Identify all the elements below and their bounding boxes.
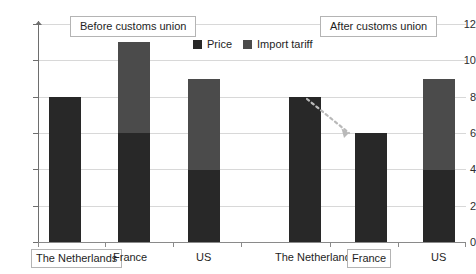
x-label-after-france: France xyxy=(347,249,391,268)
x-axis-tick-2 xyxy=(173,242,174,247)
group-title-after: After customs union xyxy=(320,16,437,37)
y-tick-label-12: 12 xyxy=(450,19,476,30)
legend-label-import-tariff: Import tariff xyxy=(257,39,312,50)
x-axis-tick-5 xyxy=(398,242,399,247)
x-label-before-france: France xyxy=(109,249,151,266)
legend-swatch-import-tariff-icon xyxy=(243,40,252,49)
plot-area xyxy=(38,24,466,242)
y-tick-6 xyxy=(33,133,38,134)
bar-segment-price xyxy=(423,170,455,242)
x-label-after-us: US xyxy=(427,249,450,266)
gridline-10 xyxy=(38,60,466,61)
bar-before-us xyxy=(188,79,220,242)
y-tick-8 xyxy=(33,97,38,98)
x-axis-line xyxy=(38,242,466,243)
bar-after-the-netherlands xyxy=(289,97,321,242)
y-tick-10 xyxy=(33,60,38,61)
bar-segment-import-tariff xyxy=(188,79,220,170)
bar-segment-price xyxy=(188,170,220,242)
x-axis-tick-4 xyxy=(330,242,331,247)
legend-label-price: Price xyxy=(207,39,232,50)
gridline-2 xyxy=(38,206,466,207)
x-axis-tick-1 xyxy=(105,242,106,247)
bar-segment-import-tariff xyxy=(423,79,455,170)
bar-before-france xyxy=(118,42,150,242)
bar-segment-price xyxy=(289,97,321,242)
bar-after-france xyxy=(355,133,387,242)
x-axis-tick-3 xyxy=(241,242,242,247)
x-label-before-us: US xyxy=(192,249,215,266)
bar-segment-price xyxy=(49,97,81,242)
bar-segment-price xyxy=(118,133,150,242)
gridline-6 xyxy=(38,133,466,134)
gridline-4 xyxy=(38,169,466,170)
chart-screenshot: 12 10 8 6 4 2 0 Before c xyxy=(0,0,476,274)
legend-swatch-price-icon xyxy=(193,40,202,49)
group-title-before: Before customs union xyxy=(70,16,196,37)
chart-legend: Price Import tariff xyxy=(191,38,315,51)
y-tick-12 xyxy=(33,24,38,25)
y-tick-4 xyxy=(33,169,38,170)
legend-entry-import-tariff: Import tariff xyxy=(243,39,312,50)
y-tick-label-10: 10 xyxy=(450,55,476,66)
x-axis-tick-0 xyxy=(38,242,39,247)
y-tick-2 xyxy=(33,206,38,207)
x-axis-tick-6 xyxy=(465,242,466,247)
bar-segment-price xyxy=(355,133,387,242)
bar-before-the-netherlands xyxy=(49,97,81,242)
legend-entry-price: Price xyxy=(193,39,232,50)
gridline-8 xyxy=(38,97,466,98)
bar-segment-import-tariff xyxy=(118,42,150,133)
y-axis-line xyxy=(38,21,39,245)
bar-after-us xyxy=(423,79,455,242)
